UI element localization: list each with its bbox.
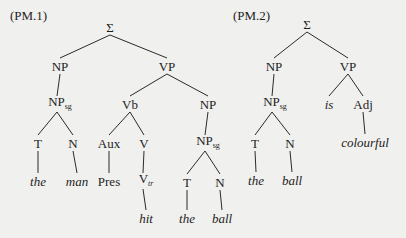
- node-label: Pres: [98, 174, 120, 189]
- node-label: NP: [200, 97, 217, 112]
- tree-edge: [272, 74, 274, 96]
- tree-node-npsg: NPsg: [48, 95, 72, 113]
- node-label: V: [139, 171, 148, 186]
- tree-edge: [187, 151, 205, 174]
- tree-edge: [274, 32, 307, 58]
- node-label: T: [251, 136, 259, 151]
- tree-node-the: the: [248, 174, 264, 187]
- tree-edge: [272, 112, 290, 135]
- tree-edge: [205, 112, 208, 135]
- tree-node-adj: Adj: [353, 98, 373, 111]
- tree-node-ball: ball: [212, 212, 232, 225]
- tree-node-vp: VP: [340, 60, 357, 73]
- node-label: NP: [48, 94, 65, 109]
- tree-edge: [143, 189, 146, 210]
- tree-edge: [307, 32, 348, 58]
- tree-node-the: the: [30, 175, 46, 188]
- node-label: T: [183, 175, 191, 190]
- node-label: N: [285, 136, 294, 151]
- tree-node-n: N: [285, 137, 294, 150]
- tree-edge: [255, 151, 256, 172]
- node-subscript: sg: [280, 102, 287, 111]
- tree-node-np: NP: [266, 60, 283, 73]
- tree-edge: [290, 151, 292, 172]
- tree-node-npsg2: NPsg: [196, 134, 220, 152]
- node-label: hit: [139, 211, 153, 226]
- tree-edge: [110, 35, 167, 58]
- tree-edge: [348, 74, 363, 96]
- tree-edge: [57, 112, 73, 135]
- node-label: Adj: [353, 97, 373, 112]
- tree-node-n2: N: [215, 176, 224, 189]
- tree-node-npsg: NPsg: [263, 95, 287, 113]
- tree-node-t: T: [251, 137, 259, 150]
- node-label: T: [34, 136, 42, 151]
- tree-edge: [57, 74, 60, 96]
- tree-node-man: man: [66, 175, 88, 188]
- node-label: Aux: [98, 136, 120, 151]
- tree-edge: [329, 74, 348, 96]
- tree-edge: [143, 151, 144, 173]
- node-subscript: sg: [65, 102, 72, 111]
- tree-node-is: is: [325, 98, 334, 111]
- tree-node-pres: Pres: [98, 175, 120, 188]
- tree-label: (PM.2): [233, 9, 270, 22]
- tree-node-vtr: Vtr: [139, 172, 154, 190]
- node-label: VP: [340, 59, 357, 74]
- tree-node-t2: T: [183, 176, 191, 189]
- node-label: N: [215, 175, 224, 190]
- tree-edge: [255, 112, 272, 135]
- tree-node-vp: VP: [159, 60, 176, 73]
- tree-edge: [130, 112, 144, 135]
- tree-node-aux: Aux: [98, 137, 120, 150]
- tree-node-n: N: [68, 137, 77, 150]
- tree-edge: [363, 112, 365, 134]
- node-label: NP: [196, 133, 213, 148]
- tree-edge: [205, 151, 220, 174]
- tree-node-hit: hit: [139, 212, 153, 225]
- tree-edge: [38, 112, 57, 135]
- tree-edge: [60, 35, 110, 58]
- node-subscript: sg: [213, 141, 220, 150]
- tree-node-ball: ball: [282, 174, 302, 187]
- tree-node-t: T: [34, 137, 42, 150]
- node-label: V: [139, 136, 148, 151]
- node-label: VP: [159, 59, 176, 74]
- node-label: ball: [212, 211, 232, 226]
- tree-edge: [130, 74, 167, 96]
- tree-node-s: Σ: [303, 18, 311, 31]
- node-label: ball: [282, 173, 302, 188]
- node-label: Vb: [122, 97, 138, 112]
- node-label: NP: [52, 59, 69, 74]
- tree-edge: [109, 112, 130, 135]
- node-subscript: tr: [148, 179, 153, 188]
- tree-node-v: V: [139, 137, 148, 150]
- tree-node-vb: Vb: [122, 98, 138, 111]
- tree-node-np2: NP: [200, 98, 217, 111]
- node-label: man: [66, 174, 88, 189]
- node-label: Σ: [106, 20, 114, 35]
- node-label: is: [325, 97, 334, 112]
- node-label: colourful: [341, 135, 389, 150]
- node-label: NP: [266, 59, 283, 74]
- tree-node-the2: the: [179, 212, 195, 225]
- tree-node-s: Σ: [106, 21, 114, 34]
- node-label: N: [68, 136, 77, 151]
- tree-edge: [73, 151, 77, 173]
- node-label: the: [179, 211, 195, 226]
- tree-edge: [220, 190, 222, 210]
- node-label: NP: [263, 94, 280, 109]
- node-label: the: [30, 174, 46, 189]
- tree-edges: [0, 0, 406, 238]
- node-label: the: [248, 173, 264, 188]
- tree-label: (PM.1): [10, 9, 47, 22]
- node-label: Σ: [303, 17, 311, 32]
- tree-node-colourful: colourful: [341, 136, 389, 149]
- tree-node-np: NP: [52, 60, 69, 73]
- tree-edge: [167, 74, 208, 96]
